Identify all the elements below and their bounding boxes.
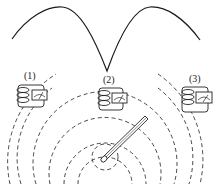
wavefront-3 [64,143,146,184]
receiver-2-label: (2) [103,74,115,86]
receiver-3-label: (3) [189,73,201,85]
receiver-3: (3) [182,73,212,112]
wavefront-4 [49,117,161,184]
receiver-1: (1) [17,70,47,107]
meter-icon [196,92,212,103]
resonance-diagram: (1) (2) (3) [0,0,224,184]
resonance-curve [12,7,200,71]
meter-icon [112,93,127,103]
antenna-source [100,116,148,163]
meter-icon [32,90,47,100]
receiver-2: (2) [98,74,127,110]
receiver-1-label: (1) [24,70,36,82]
